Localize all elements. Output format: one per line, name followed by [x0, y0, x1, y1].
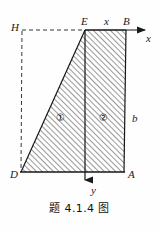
point-label-B: B — [123, 16, 130, 27]
point-label-A: A — [128, 169, 135, 180]
region-label-two: ② — [99, 113, 108, 123]
dimension-label-b: b — [132, 113, 138, 124]
figure-caption: 题 4.1.4 图 — [0, 199, 159, 215]
hatched-region — [21, 30, 126, 172]
point-label-E: E — [81, 16, 88, 27]
dashed-line-vertical — [21, 31, 22, 171]
x-axis-label: x — [146, 33, 151, 44]
point-label-H: H — [11, 22, 19, 33]
point-label-D: D — [10, 169, 18, 180]
y-axis-label: y — [91, 185, 96, 196]
region-label-one: ① — [56, 113, 65, 123]
dimension-label-x: x — [104, 16, 109, 27]
figure-container: H E x B x b D A y ① ② 题 4.1.4 图 — [0, 0, 159, 230]
